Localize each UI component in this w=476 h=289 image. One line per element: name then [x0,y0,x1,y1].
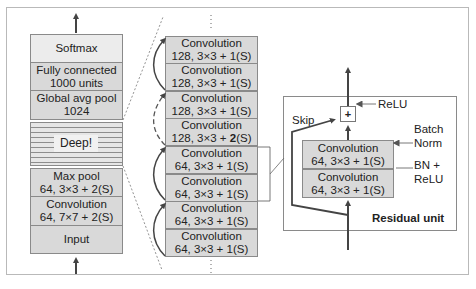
connectors-overlay [0,0,476,289]
